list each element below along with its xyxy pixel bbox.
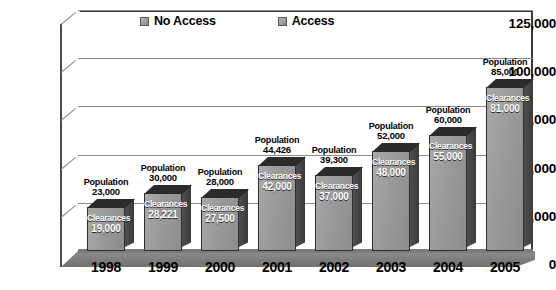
clearances-label: Clearances42,000	[258, 171, 296, 192]
population-label: Population85,000	[463, 57, 547, 77]
population-label: Population28,000	[178, 167, 262, 187]
clearances-label: Clearances37,000	[315, 181, 353, 202]
clearances-label-prefix: Clearances	[315, 181, 353, 191]
clearances-label: Clearances81,000	[486, 93, 524, 114]
clearances-label-prefix: Clearances	[258, 171, 296, 181]
clearances-label-value: 27,500	[201, 213, 239, 224]
population-label: Population60,000	[406, 105, 490, 125]
x-axis-tick-label: 2004	[421, 259, 475, 275]
clearances-label: Clearances28,221	[144, 199, 182, 220]
population-label: Population39,300	[292, 145, 376, 165]
clearances-label-prefix: Clearances	[429, 141, 467, 151]
clearances-label-prefix: Clearances	[372, 157, 410, 167]
clearances-label: Clearances27,500	[201, 203, 239, 224]
legend-item-access: Access	[278, 14, 335, 28]
bar-column: Clearances27,500	[201, 197, 239, 251]
clearances-label-value: 37,000	[315, 191, 353, 202]
population-label-value: 52,000	[349, 131, 433, 141]
x-axis-tick-label: 2005	[478, 259, 532, 275]
clearances-label-prefix: Clearances	[486, 93, 524, 103]
plot-left-wall-edge	[60, 24, 62, 267]
chart-legend: No Access Access	[140, 14, 334, 28]
bar-side-face	[524, 79, 533, 247]
clearances-label-value: 42,000	[258, 181, 296, 192]
population-label-value: 39,300	[292, 155, 376, 165]
clearances-label-prefix: Clearances	[201, 203, 239, 213]
x-axis-tick-label: 1999	[136, 259, 190, 275]
legend-label-no-access: No Access	[154, 14, 216, 28]
x-axis-tick-label: 1998	[79, 259, 133, 275]
clearances-label: Clearances48,000	[372, 157, 410, 178]
x-axis-tick-label: 2000	[193, 259, 247, 275]
plot-left-wall	[61, 10, 80, 267]
legend-swatch-icon	[140, 17, 149, 26]
bar-side-face	[182, 185, 191, 247]
population-label-value: 60,000	[406, 115, 490, 125]
bar-column: Clearances28,221	[144, 193, 182, 251]
clearances-label-value: 81,000	[486, 103, 524, 114]
clearances-label: Clearances55,000	[429, 141, 467, 162]
clearances-label: Clearances19,000	[87, 213, 125, 234]
bar-column: Clearances48,000	[372, 151, 410, 251]
clearances-label-value: 28,221	[144, 209, 182, 220]
clearances-label-prefix: Clearances	[87, 213, 125, 223]
bar-column: Clearances55,000	[429, 135, 467, 251]
clearances-label-value: 55,000	[429, 151, 467, 162]
bar-side-face	[353, 167, 362, 247]
population-label-value: 85,000	[463, 67, 547, 77]
x-axis-tick-label: 2003	[364, 259, 418, 275]
gridline	[78, 10, 533, 11]
legend-label-access: Access	[292, 14, 335, 28]
x-axis-tick-label: 2001	[250, 259, 304, 275]
population-label-value: 28,000	[178, 177, 262, 187]
clearances-label-value: 19,000	[87, 223, 125, 234]
bar-column: Clearances37,000	[315, 175, 353, 251]
bar-column: Clearances42,000	[258, 165, 296, 251]
clearances-label-value: 48,000	[372, 167, 410, 178]
bar-side-face	[239, 189, 248, 247]
bar-column: Clearances81,000	[486, 87, 524, 251]
clearances-label-prefix: Clearances	[144, 199, 182, 209]
bar-chart: 025,00050,00075,000100,000125,000 No Acc…	[0, 0, 556, 290]
bar-column: Clearances19,000	[87, 207, 125, 251]
legend-item-no-access: No Access	[140, 14, 216, 28]
y-axis-tick-label: 125,000	[482, 17, 556, 30]
x-axis-tick-label: 2002	[307, 259, 361, 275]
legend-swatch-icon	[278, 17, 287, 26]
population-label-value: 23,000	[64, 187, 148, 197]
